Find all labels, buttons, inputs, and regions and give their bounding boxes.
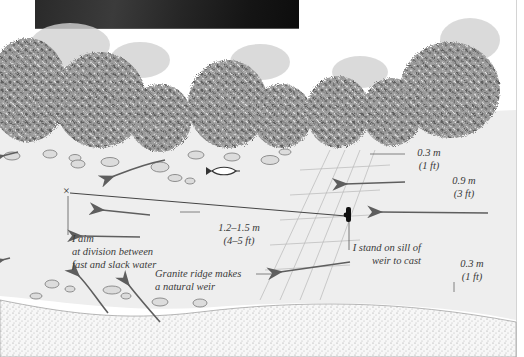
- depth-low-m: 0.3 m: [452, 257, 492, 270]
- ridge-label: Granite ridge makes a natural weir: [155, 267, 241, 293]
- stand-line-1: I stand on sill of: [352, 241, 421, 254]
- depth-mid-label: 0.9 m (3 ft): [442, 174, 486, 200]
- aim-line-3: fast and slack water: [72, 258, 156, 271]
- stand-label: I stand on sill of weir to cast: [352, 241, 421, 267]
- ridge-line-2: a natural weir: [155, 280, 241, 293]
- ridge-line-1: Granite ridge makes: [155, 267, 241, 280]
- river-bank: [0, 300, 516, 357]
- stand-line-2: weir to cast: [352, 254, 421, 267]
- aim-line-2: at division between: [72, 245, 156, 258]
- depth-pool-m: 1.2–1.5 m: [206, 221, 272, 234]
- depth-low-label: 0.3 m (1 ft): [452, 257, 492, 283]
- depth-top-label: 0.3 m (1 ft): [408, 146, 450, 172]
- depth-top-ft: (1 ft): [408, 159, 450, 172]
- depth-pool-label: 1.2–1.5 m (4–5 ft): [206, 221, 272, 247]
- depth-mid-m: 0.9 m: [442, 174, 486, 187]
- depth-top-m: 0.3 m: [408, 146, 450, 159]
- depth-mid-ft: (3 ft): [442, 187, 486, 200]
- depth-pool-ft: (4–5 ft): [206, 234, 272, 247]
- fishing-weir-diagram: × 0.3 m (1 ft) 0.9 m (3 ft) 1.2–1.5 m (4…: [0, 0, 524, 357]
- aim-line-1: I aim: [72, 232, 156, 245]
- aim-target-marker: ×: [63, 185, 70, 198]
- depth-low-ft: (1 ft): [452, 270, 492, 283]
- aim-label: I aim at division between fast and slack…: [72, 232, 156, 271]
